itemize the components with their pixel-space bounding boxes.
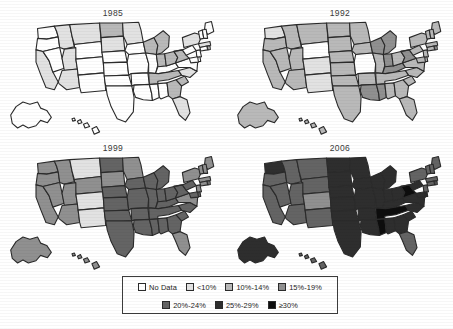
state-mo	[127, 188, 148, 210]
legend-swatch	[268, 301, 276, 309]
state-tx	[333, 221, 361, 257]
state-nd	[327, 23, 351, 38]
map-1985	[6, 20, 220, 138]
state-ar	[358, 208, 376, 221]
state-wy	[74, 41, 102, 59]
state-ut	[289, 183, 304, 206]
state-az	[58, 204, 79, 225]
state-fl	[399, 97, 417, 121]
state-hi	[299, 118, 327, 134]
state-tx	[333, 86, 361, 122]
state-mt	[297, 158, 328, 179]
legend-label: <10%	[197, 283, 217, 292]
state-ut	[289, 48, 304, 71]
legend-swatch	[138, 283, 146, 291]
legend-swatch	[225, 283, 233, 291]
state-hi	[299, 253, 327, 269]
state-mo	[127, 53, 148, 75]
state-mo	[354, 53, 375, 75]
state-sd	[101, 171, 125, 187]
state-ut	[62, 183, 77, 206]
panel-title-1985: 1985	[0, 8, 226, 18]
state-mt	[297, 23, 328, 44]
legend-label: ≥30%	[279, 301, 298, 310]
legend-row-2: 20%-24%25%-29%≥30%	[123, 296, 337, 314]
state-co	[303, 192, 331, 210]
state-ut	[62, 48, 77, 71]
state-ct	[427, 181, 435, 186]
state-ri	[208, 181, 211, 185]
state-fl	[399, 232, 417, 256]
state-ia	[352, 177, 373, 189]
state-tx	[106, 221, 134, 257]
state-ct	[200, 181, 208, 186]
state-ct	[427, 46, 435, 51]
state-mo	[354, 188, 375, 210]
state-ks	[103, 197, 128, 211]
state-nh	[202, 29, 207, 38]
legend-label: 10%-14%	[236, 283, 269, 292]
map-panel-2006: 2006	[227, 135, 453, 275]
state-md	[189, 57, 198, 63]
legend-item: 10%-14%	[225, 283, 269, 292]
us-map-svg	[6, 155, 220, 273]
state-az	[285, 204, 306, 225]
legend-item: ≥30%	[268, 301, 298, 310]
state-ct	[200, 46, 208, 51]
state-mn	[350, 157, 371, 179]
panel-title-1999: 1999	[0, 143, 226, 153]
panel-title-2006: 2006	[227, 143, 453, 153]
legend-item: 25%-29%	[215, 301, 259, 310]
state-ar	[131, 73, 149, 86]
state-mn	[350, 22, 371, 44]
legend-item: No Data	[138, 283, 177, 292]
us-map-svg	[233, 20, 447, 138]
state-ne	[329, 186, 354, 198]
us-map-svg	[6, 20, 220, 138]
state-ks	[330, 197, 355, 211]
map-panel-1999: 1999	[0, 135, 226, 275]
state-mn	[123, 157, 144, 179]
state-wy	[301, 176, 329, 194]
state-co	[303, 57, 331, 75]
state-md	[416, 57, 425, 63]
us-map-svg	[233, 155, 447, 273]
map-2006	[233, 155, 447, 273]
legend-label: 20%-24%	[173, 301, 206, 310]
state-ak	[238, 102, 279, 128]
state-nm	[305, 208, 333, 228]
state-co	[76, 192, 104, 210]
map-panel-1985: 1985	[0, 0, 226, 140]
legend-item: <10%	[186, 283, 217, 292]
state-co	[76, 57, 104, 75]
state-wy	[74, 176, 102, 194]
state-mn	[123, 22, 144, 44]
state-ar	[131, 208, 149, 221]
legend-swatch	[162, 301, 170, 309]
state-mt	[70, 158, 101, 179]
state-md	[189, 192, 198, 198]
state-ri	[208, 46, 211, 50]
legend: No Data<10%10%-14%15%-19% 20%-24%25%-29%…	[122, 276, 338, 314]
state-nh	[202, 164, 207, 173]
obesity-map-figure: 1985 1992 1999 2006 No Data<10%10%-14%15…	[0, 0, 453, 329]
state-tx	[106, 86, 134, 122]
state-az	[58, 69, 79, 90]
legend-item: 20%-24%	[162, 301, 206, 310]
state-ia	[352, 42, 373, 54]
state-sd	[328, 36, 352, 52]
state-hi	[72, 253, 100, 269]
state-nd	[100, 23, 124, 38]
legend-swatch	[215, 301, 223, 309]
panel-title-1992: 1992	[227, 8, 453, 18]
legend-label: 15%-19%	[289, 283, 322, 292]
state-ks	[103, 62, 128, 76]
state-nm	[305, 73, 333, 93]
state-ne	[102, 186, 127, 198]
state-nm	[78, 73, 106, 93]
state-ak	[11, 102, 52, 128]
state-hi	[72, 118, 100, 134]
state-nm	[78, 208, 106, 228]
legend-item: 15%-19%	[278, 283, 322, 292]
map-panel-1992: 1992	[227, 0, 453, 140]
